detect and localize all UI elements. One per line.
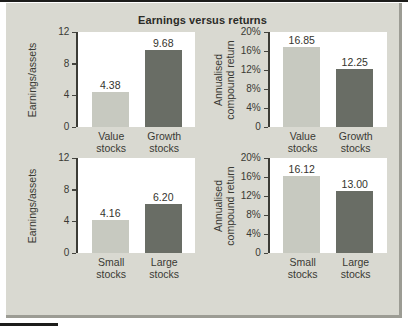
plot-row: 04812 4.389.68: [46, 32, 197, 127]
y-axis-label: Annualised compound return: [212, 32, 236, 127]
bar-value-label: 6.20: [153, 191, 173, 203]
x-category-label: Small stocks: [279, 256, 327, 280]
y-tick-label: 20%: [241, 27, 261, 37]
bar-value-label: 12.25: [342, 56, 368, 68]
y-tick-label: 4%: [246, 103, 260, 113]
caption-rule: [0, 323, 58, 326]
y-tick-label: 4%: [246, 229, 260, 239]
y-axis-ticks: 04812: [46, 32, 76, 127]
y-axis-label: Earnings/assets: [26, 158, 38, 253]
chart-body: 04%8%12%16%20% 16.8512.25 Value stocksGr…: [238, 32, 389, 154]
bar-large-stocks: [145, 204, 182, 253]
y-tick-label: 4: [64, 216, 70, 226]
x-category-labels: Value stocksGrowth stocks: [270, 127, 389, 154]
plot-area: 16.8512.25: [268, 32, 387, 127]
y-axis-ticks: 04%8%12%16%20%: [238, 158, 268, 253]
y-tick-label: 0: [64, 122, 70, 132]
bar-value-stocks: [92, 92, 129, 127]
chart-earnings-value-growth: Earnings/assets 04812 4.389.68 Value sto…: [12, 32, 204, 154]
y-axis-label: Earnings/assets: [26, 32, 38, 127]
x-category-label: Growth stocks: [140, 130, 188, 154]
bar-group: 4.16: [92, 158, 129, 253]
figure-title: Earnings versus returns: [6, 3, 399, 26]
x-category-label: Value stocks: [279, 130, 327, 154]
figure-panel: Earnings versus returns Earnings/assets …: [6, 3, 402, 318]
y-tick-label: 8%: [246, 210, 260, 220]
bars-container: 4.166.20: [78, 158, 195, 253]
plot-area: 4.389.68: [76, 32, 195, 127]
y-tick-label: 12%: [241, 65, 261, 75]
x-category-label: Large stocks: [332, 256, 380, 280]
x-category-labels: Small stocksLarge stocks: [78, 253, 197, 280]
bar-value-label: 9.68: [153, 37, 173, 49]
bar-value-stocks: [283, 47, 320, 127]
y-tick-label: 12: [58, 27, 69, 37]
plot-row: 04812 4.166.20: [46, 158, 197, 253]
chart-body: 04812 4.166.20 Small stocksLarge stocks: [46, 158, 197, 280]
y-tick-label: 0: [255, 122, 261, 132]
bar-group: 16.85: [283, 32, 320, 127]
y-axis-label-wrap: Annualised compound return: [210, 32, 238, 127]
bar-group: 6.20: [145, 158, 182, 253]
plot-area: 4.166.20: [76, 158, 195, 253]
y-tick-label: 8: [64, 185, 70, 195]
y-axis-label: Annualised compound return: [212, 158, 236, 253]
y-tick-label: 12: [58, 153, 69, 163]
y-axis-label-wrap: Earnings/assets: [18, 32, 46, 127]
bars-container: 4.389.68: [78, 32, 195, 127]
y-tick-label: 0: [255, 248, 261, 258]
bar-group: 13.00: [336, 158, 373, 253]
x-category-labels: Value stocksGrowth stocks: [78, 127, 197, 154]
bars-container: 16.8512.25: [270, 32, 387, 127]
y-tick-label: 8%: [246, 84, 260, 94]
bar-growth-stocks: [336, 69, 373, 127]
bar-value-label: 4.38: [100, 79, 120, 91]
bar-growth-stocks: [145, 50, 182, 127]
bar-group: 4.38: [92, 32, 129, 127]
y-tick-label: 8: [64, 59, 70, 69]
y-tick-label: 0: [64, 248, 70, 258]
x-category-label: Small stocks: [87, 256, 135, 280]
y-axis-label-wrap: Earnings/assets: [18, 158, 46, 253]
plot-row: 04%8%12%16%20% 16.1213.00: [238, 158, 389, 253]
y-axis-label-wrap: Annualised compound return: [210, 158, 238, 253]
bar-value-label: 4.16: [100, 207, 120, 219]
y-tick-label: 4: [64, 90, 70, 100]
x-category-label: Growth stocks: [332, 130, 380, 154]
y-tick-label: 16%: [241, 46, 261, 56]
bar-large-stocks: [336, 191, 373, 253]
y-axis-ticks: 04%8%12%16%20%: [238, 32, 268, 127]
bar-value-label: 16.12: [289, 163, 315, 175]
figure-page: Earnings versus returns Earnings/assets …: [0, 0, 408, 330]
chart-return-small-large: Annualised compound return 04%8%12%16%20…: [204, 158, 396, 280]
bar-small-stocks: [92, 220, 129, 253]
bar-group: 9.68: [145, 32, 182, 127]
plot-area: 16.1213.00: [268, 158, 387, 253]
y-tick-label: 16%: [241, 172, 261, 182]
bar-group: 12.25: [336, 32, 373, 127]
bar-small-stocks: [283, 176, 320, 253]
top-rule: [0, 0, 408, 2]
chart-body: 04%8%12%16%20% 16.1213.00 Small stocksLa…: [238, 158, 389, 280]
plot-row: 04%8%12%16%20% 16.8512.25: [238, 32, 389, 127]
chart-grid: Earnings/assets 04812 4.389.68 Value sto…: [6, 26, 399, 280]
x-category-label: Value stocks: [87, 130, 135, 154]
y-axis-ticks: 04812: [46, 158, 76, 253]
bars-container: 16.1213.00: [270, 158, 387, 253]
bar-value-label: 16.85: [289, 34, 315, 46]
chart-earnings-small-large: Earnings/assets 04812 4.166.20 Small sto…: [12, 158, 204, 280]
y-tick-label: 20%: [241, 153, 261, 163]
bar-value-label: 13.00: [342, 178, 368, 190]
chart-return-value-growth: Annualised compound return 04%8%12%16%20…: [204, 32, 396, 154]
y-tick-label: 12%: [241, 191, 261, 201]
x-category-labels: Small stocksLarge stocks: [270, 253, 389, 280]
chart-body: 04812 4.389.68 Value stocksGrowth stocks: [46, 32, 197, 154]
x-category-label: Large stocks: [140, 256, 188, 280]
bar-group: 16.12: [283, 158, 320, 253]
